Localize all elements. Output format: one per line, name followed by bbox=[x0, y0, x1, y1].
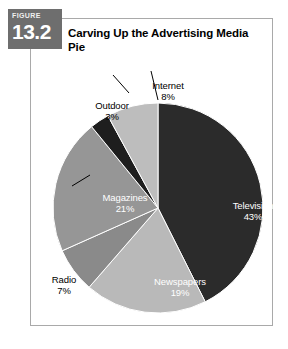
leader-line-outdoor bbox=[113, 75, 129, 93]
slice-label-newspapers-value: 19% bbox=[142, 287, 218, 298]
slice-label-radio-name: Radio bbox=[42, 274, 86, 285]
slice-label-television-name: Television bbox=[216, 200, 288, 211]
slice-label-outdoor-value: 3% bbox=[82, 111, 142, 122]
slice-label-television-value: 43% bbox=[216, 211, 288, 222]
slice-label-radio: Radio 7% bbox=[42, 274, 86, 296]
slice-label-newspapers: Newspapers 19% bbox=[142, 276, 218, 298]
slice-label-outdoor-name: Outdoor bbox=[82, 100, 142, 111]
figure-title: Carving Up the Advertising Media Pie bbox=[68, 26, 268, 54]
slice-label-internet-value: 8% bbox=[138, 91, 198, 102]
slice-label-magazines-value: 21% bbox=[88, 203, 162, 214]
figure-word: FIGURE bbox=[12, 11, 62, 20]
figure-container: Internet 8% Outdoor 3% Television 43% Ma… bbox=[0, 0, 288, 349]
figure-number-tab: FIGURE 13.2 bbox=[8, 9, 62, 49]
slice-label-outdoor: Outdoor 3% bbox=[82, 100, 142, 122]
slice-label-magazines: Magazines 21% bbox=[88, 192, 162, 214]
slice-label-radio-value: 7% bbox=[42, 285, 86, 296]
slice-label-internet-name: Internet bbox=[138, 80, 198, 91]
slice-label-internet: Internet 8% bbox=[138, 80, 198, 102]
pie-chart: Internet 8% Outdoor 3% Television 43% Ma… bbox=[30, 18, 273, 326]
slice-label-newspapers-name: Newspapers bbox=[142, 276, 218, 287]
slice-label-television: Television 43% bbox=[216, 200, 288, 222]
figure-number: 13.2 bbox=[12, 20, 62, 44]
slice-label-magazines-name: Magazines bbox=[88, 192, 162, 203]
